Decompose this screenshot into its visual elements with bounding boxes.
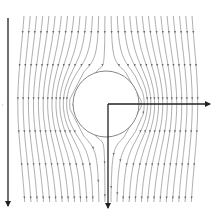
flow-direction-icon: [22, 31, 24, 34]
flow-direction-icon: [23, 196, 25, 199]
flow-direction-icon: [39, 163, 41, 166]
flow-direction-icon: [47, 97, 49, 100]
flow-direction-icon: [128, 196, 130, 199]
flow-direction-icon: [184, 196, 186, 199]
flow-direction-icon: [119, 159, 121, 162]
flow-direction-icon: [69, 163, 71, 166]
flow-direction-icon: [30, 64, 32, 67]
flow-direction-icon: [34, 130, 36, 133]
flow-direction-icon: [104, 194, 106, 197]
flow-direction-icon: [24, 64, 26, 67]
flow-direction-icon: [116, 192, 118, 195]
flow-direction-icon: [57, 163, 59, 166]
flow-direction-icon: [63, 64, 65, 67]
flow-direction-icon: [74, 64, 76, 67]
flow-direction-icon: [82, 163, 84, 166]
flow-direction-icon: [33, 163, 35, 166]
flow-direction-icon: [111, 31, 113, 34]
flow-direction-icon: [42, 97, 44, 100]
flow-direction-icon: [185, 130, 187, 133]
streamline: [154, 16, 167, 202]
flow-direction-icon: [23, 130, 25, 133]
flow-direction-icon: [40, 31, 42, 34]
flow-direction-icon: [71, 31, 73, 34]
flow-direction-icon: [175, 163, 177, 166]
flow-direction-icon: [193, 163, 195, 166]
streamline: [173, 16, 182, 202]
flow-direction-icon: [113, 153, 115, 156]
flow-direction-icon: [65, 31, 67, 34]
flow-direction-icon: [34, 31, 36, 34]
flow-direction-icon: [64, 130, 66, 133]
flow-direction-icon: [159, 196, 161, 199]
flow-direction-icon: [39, 130, 41, 133]
flow-direction-icon: [36, 196, 38, 199]
flow-direction-icon: [67, 196, 69, 199]
flow-direction-icon: [192, 31, 194, 34]
flow-direction-icon: [55, 97, 57, 100]
flow-direction-icon: [164, 130, 166, 133]
flow-direction-icon: [17, 97, 19, 100]
flow-direction-icon: [77, 31, 79, 34]
flow-direction-icon: [46, 31, 48, 34]
flow-direction-icon: [173, 64, 175, 67]
flow-direction-icon: [57, 64, 59, 67]
flow-direction-icon: [162, 97, 164, 100]
flow-direction-icon: [75, 163, 77, 166]
flow-direction-icon: [33, 97, 35, 100]
flow-direction-icon: [55, 196, 57, 199]
flow-direction-icon: [89, 163, 91, 166]
flow-direction-icon: [146, 97, 148, 100]
flow-direction-icon: [150, 97, 152, 100]
flow-direction-icon: [166, 97, 168, 100]
flow-direction-icon: [191, 97, 193, 100]
flow-direction-icon: [124, 31, 126, 34]
flow-direction-icon: [51, 97, 53, 100]
flow-direction-icon: [184, 64, 186, 67]
flow-direction-icon: [151, 163, 153, 166]
flow-direction-icon: [186, 97, 188, 100]
flow-direction-icon: [154, 130, 156, 133]
flow-direction-icon: [92, 196, 94, 199]
side-label: ı: [2, 102, 3, 107]
flow-direction-icon: [73, 196, 75, 199]
flow-direction-icon: [86, 196, 88, 199]
flow-direction-icon: [55, 130, 57, 133]
flow-direction-icon: [162, 31, 164, 34]
flow-direction-icon: [139, 163, 141, 166]
flow-direction-icon: [171, 97, 173, 100]
flow-direction-icon: [159, 130, 161, 133]
flow-direction-icon: [58, 31, 60, 34]
flow-direction-icon: [50, 130, 52, 133]
streamline: [23, 16, 31, 202]
flow-direction-icon: [21, 163, 23, 166]
flow-direction-icon: [195, 64, 197, 67]
flow-direction-icon: [30, 196, 32, 199]
flow-direction-icon: [131, 31, 133, 34]
flow-direction-icon: [178, 196, 180, 199]
flow-direction-icon: [90, 31, 92, 34]
flow-direction-icon: [135, 196, 137, 199]
flow-direction-icon: [142, 112, 144, 115]
flow-direction-icon: [151, 64, 153, 67]
flow-direction-icon: [52, 64, 54, 67]
flow-direction-icon: [45, 163, 47, 166]
flow-direction-icon: [22, 97, 24, 100]
flow-direction-icon: [167, 64, 169, 67]
flow-direction-icon: [140, 64, 142, 67]
flow-direction-icon: [169, 130, 171, 133]
flow-direction-icon: [141, 196, 143, 199]
flow-direction-icon: [176, 97, 178, 100]
flow-direction-icon: [36, 64, 38, 67]
flow-direction-icon: [41, 64, 43, 67]
flow-direction-icon: [63, 163, 65, 166]
flow-direction-icon: [63, 97, 65, 100]
flow-direction-icon: [104, 31, 106, 34]
flow-direction-icon: [92, 147, 94, 150]
flow-direction-icon: [147, 196, 149, 199]
flow-direction-icon: [52, 31, 54, 34]
flow-direction-icon: [143, 31, 145, 34]
flow-direction-icon: [153, 97, 155, 100]
flow-direction-icon: [110, 186, 112, 189]
flow-direction-icon: [66, 97, 68, 100]
